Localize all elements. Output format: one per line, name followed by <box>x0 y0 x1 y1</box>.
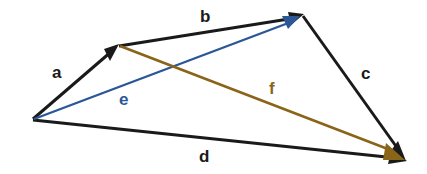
label-f: f <box>269 79 275 98</box>
vector-b <box>119 12 304 46</box>
vector-d-shaft <box>33 120 396 158</box>
vector-a-shaft <box>33 51 112 119</box>
vector-c <box>303 16 406 161</box>
label-a: a <box>52 63 62 82</box>
label-b: b <box>200 7 210 26</box>
vector-a-arrowhead <box>104 44 119 61</box>
label-c: c <box>361 64 370 83</box>
vector-e-arrowhead <box>282 16 300 29</box>
vector-d <box>33 120 407 164</box>
vector-diagram: a b c d e f <box>0 0 427 174</box>
vector-a <box>33 44 119 119</box>
vector-canvas: a b c d e f <box>0 0 427 174</box>
label-d: d <box>199 147 209 166</box>
vector-e <box>34 16 300 119</box>
vector-f-shaft <box>120 46 393 151</box>
label-e: e <box>119 90 128 109</box>
vector-e-shaft <box>34 22 291 119</box>
vector-c-shaft <box>303 16 398 149</box>
